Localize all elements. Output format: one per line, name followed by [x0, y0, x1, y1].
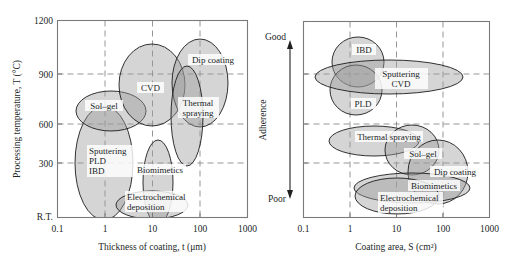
right-chart-panel: 0.1 1 10 100 1000 Coating area, S (cm²) …: [258, 22, 499, 254]
right-x-tickmarks: [350, 213, 443, 218]
label-thermal-left-line2: spraying: [183, 108, 214, 118]
label-biomimetics-right: Biomimetics: [411, 181, 457, 191]
label-sol-gel-left: Sol–gel: [90, 101, 118, 111]
adherence-axis: Good Poor Adherence: [258, 32, 293, 204]
right-xtick-0.1: 0.1: [298, 224, 310, 234]
right-xtick-1: 1: [348, 224, 353, 234]
left-ytick-900: 900: [39, 70, 54, 80]
label-dip-coating-right: Dip coating: [434, 167, 477, 177]
left-x-tickmarks: [105, 213, 200, 218]
label-sputtering-right: Sputtering: [382, 69, 420, 79]
label-cvd-left: CVD: [141, 83, 161, 93]
left-ytick-600: 600: [39, 120, 54, 130]
left-xtick-10: 10: [148, 224, 158, 234]
adherence-good-label: Good: [265, 32, 286, 42]
arrow-down-icon: [287, 190, 293, 199]
right-x-axis-label: Coating area, S (cm²): [355, 242, 436, 253]
right-y-axis-label: Adherence: [258, 99, 268, 140]
label-echem-left-line1: Electrochemical: [127, 192, 186, 202]
arrow-up-icon: [287, 40, 293, 49]
label-pld-left: PLD: [89, 156, 107, 166]
label-thermal-left-line1: Thermal: [183, 98, 214, 108]
label-pld-right: PLD: [354, 99, 372, 109]
label-echem-right-line2: deposition: [380, 203, 418, 213]
label-echem-right-line1: Electrochemical: [380, 193, 439, 203]
label-cvd-right: CVD: [391, 79, 411, 89]
figure-svg: 1200 900 600 300 R.T. 0.1 1 10 100 1000 …: [0, 0, 525, 269]
adherence-poor-label: Poor: [268, 194, 287, 204]
right-xtick-10: 10: [392, 224, 402, 234]
right-y-tickmarks: [304, 74, 309, 163]
label-ibd-right: IBD: [356, 45, 372, 55]
figure-root: 1200 900 600 300 R.T. 0.1 1 10 100 1000 …: [0, 0, 525, 269]
left-xtick-100: 100: [193, 224, 208, 234]
left-ytick-rt: R.T.: [37, 212, 53, 222]
label-sol-gel-right: Sol–gel: [409, 149, 437, 159]
left-xtick-1000: 1000: [238, 224, 257, 234]
left-chart-panel: 1200 900 600 300 R.T. 0.1 1 10 100 1000 …: [12, 16, 257, 253]
label-biomimetics-left: Biomimetics: [137, 165, 183, 175]
left-xtick-0.1: 0.1: [52, 224, 64, 234]
label-echem-left-line2: deposition: [127, 202, 165, 212]
left-y-tickmarks: [58, 74, 63, 163]
left-x-axis-label: Thickness of coating, t (μm): [98, 242, 206, 253]
left-y-axis-label: Processing temperature, T (°C): [12, 60, 23, 178]
label-dip-coating-left: Dip coating: [192, 55, 235, 65]
left-ytick-1200: 1200: [34, 16, 53, 26]
left-ytick-300: 300: [39, 159, 54, 169]
label-ibd-left: IBD: [89, 166, 105, 176]
label-thermal-spraying-right: Thermal spraying: [357, 132, 421, 142]
label-sputtering-left: Sputtering: [89, 146, 127, 156]
right-xtick-1000: 1000: [480, 224, 499, 234]
right-xtick-100: 100: [436, 224, 451, 234]
left-xtick-1: 1: [103, 224, 108, 234]
